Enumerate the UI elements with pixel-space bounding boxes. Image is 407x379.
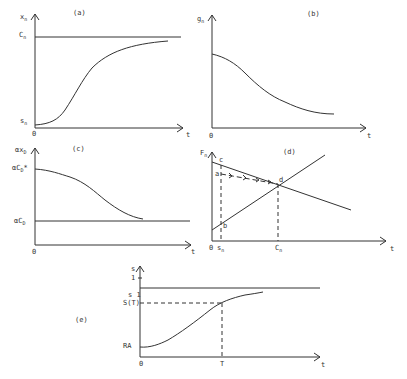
figure-canvas <box>0 0 407 379</box>
panel-d-arrowhead-2 <box>243 175 246 180</box>
panel-e-growth-curve <box>140 292 263 347</box>
panel-c-origin-label: 0 <box>32 249 36 256</box>
panel-c <box>31 148 191 249</box>
panel-e-x-label: t <box>321 362 325 369</box>
panel-e-title: (e) <box>75 317 88 324</box>
panel-e-ra-label: RA <box>123 343 131 350</box>
panel-d-point-b: b <box>223 223 227 230</box>
panel-c-title: (c) <box>72 146 85 153</box>
panel-e <box>136 266 320 361</box>
panel-b-title: (b) <box>307 11 320 18</box>
panel-a-y-label: xn <box>20 14 27 21</box>
panel-e-level-label: s 1 <box>128 292 141 299</box>
panel-d-cn-tick: Cn <box>275 245 282 252</box>
panel-c-upper-label: αCD* <box>12 165 28 172</box>
panel-a-cn-label: Cn <box>19 32 26 39</box>
panel-d-point-c: c <box>219 157 223 164</box>
panel-c-lower-label: αCD <box>14 218 25 225</box>
panel-d-origin-label: 0 <box>209 245 213 252</box>
panel-a-sn-label: sn <box>20 118 27 125</box>
panel-b-x-label: t <box>367 133 371 140</box>
panel-e-y-label: s <box>131 266 135 273</box>
panel-b-decay-curve <box>212 54 334 114</box>
panel-d-point-d: d <box>279 177 283 184</box>
panel-a-x-label: t <box>186 132 190 139</box>
panel-d-point-a: a <box>215 171 219 178</box>
panel-d-rising-line <box>212 155 325 230</box>
panel-b-origin-label: 0 <box>209 133 213 140</box>
panel-d-title: (d) <box>283 149 296 156</box>
panel-e-origin-label: 0 <box>139 361 143 368</box>
panel-d-x-label: t <box>390 246 394 253</box>
panel-c-x-label: t <box>191 249 195 256</box>
panel-e-t-tick: T <box>220 361 224 368</box>
panel-c-y-label: αxD <box>15 147 26 154</box>
panel-c-decay-curve <box>35 169 143 219</box>
panel-a-title: (a) <box>73 10 86 17</box>
panel-b <box>208 15 366 132</box>
panel-e-y-tick-1: 1 <box>131 275 135 282</box>
panel-d-falling-line <box>212 162 351 210</box>
panel-e-st-label: S(T) <box>123 300 140 307</box>
panel-d-y-label: Fn <box>200 150 207 157</box>
panel-d-sn-tick: sn <box>217 245 224 252</box>
panel-d <box>208 152 386 245</box>
panel-b-y-label: gn <box>197 16 204 23</box>
panel-a-sigmoid-curve <box>35 41 168 125</box>
panel-a <box>31 14 183 132</box>
panel-a-origin-label: 0 <box>32 131 36 138</box>
